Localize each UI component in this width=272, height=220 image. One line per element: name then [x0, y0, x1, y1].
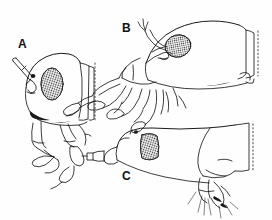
- panel-label-c: C: [122, 170, 131, 182]
- panel-label-a: A: [18, 38, 27, 50]
- panel-a-drawing: [12, 53, 95, 189]
- figure-plate: A B C: [0, 0, 272, 220]
- panel-c-drawing: [82, 123, 253, 218]
- line-drawing-canvas: [0, 0, 272, 220]
- panel-b-drawing: [63, 19, 258, 133]
- panel-label-b: B: [122, 22, 131, 34]
